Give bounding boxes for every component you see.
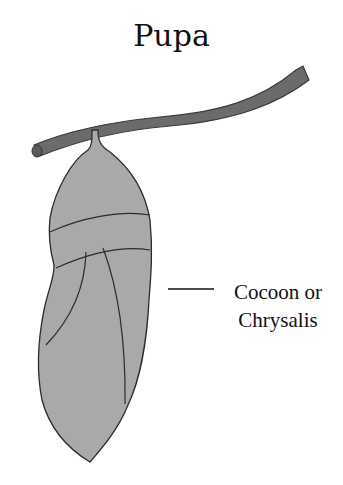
pupa-illustration (0, 0, 343, 485)
twig (32, 66, 309, 157)
cocoon-label: Cocoon or Chrysalis (222, 278, 334, 334)
diagram-canvas: Pupa Cocoon or Chrysalis (0, 0, 343, 485)
cocoon-label-line2: Chrysalis (222, 306, 334, 334)
cocoon-label-line1: Cocoon or (222, 278, 334, 306)
pupa-body (38, 130, 151, 462)
